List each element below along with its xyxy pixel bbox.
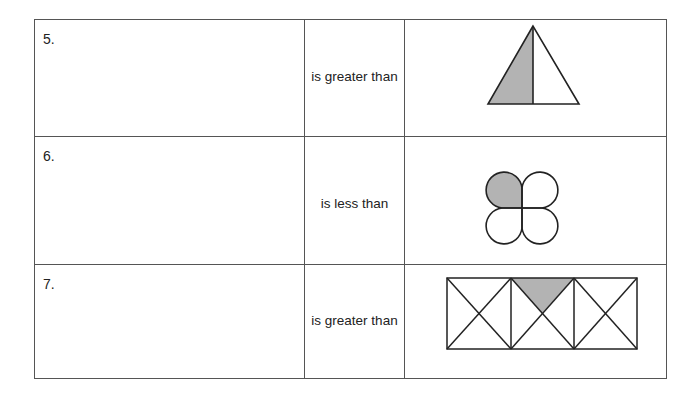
comparison-text: is greater than	[311, 313, 397, 328]
question-number: 6.	[43, 148, 55, 164]
figure-cell	[404, 137, 666, 264]
comparison-cell: is less than	[304, 137, 404, 264]
comparison-text: is less than	[321, 196, 389, 211]
four-petal-flower-icon	[405, 137, 667, 263]
question-number: 7.	[43, 276, 55, 292]
triangle-half-shaded-icon	[405, 20, 667, 134]
comparison-text: is greater than	[311, 69, 397, 84]
figure-cell	[404, 265, 666, 378]
answer-cell[interactable]: 7.	[35, 265, 304, 378]
figure-cell	[404, 20, 666, 136]
table-row: 7. is greater than	[35, 264, 666, 378]
fraction-comparison-table: 5. is greater than 6. is less than	[34, 19, 667, 379]
comparison-cell: is greater than	[304, 265, 404, 378]
three-squares-diagonals-icon	[405, 265, 667, 377]
table-row: 6. is less than	[35, 136, 666, 264]
comparison-cell: is greater than	[304, 20, 404, 136]
answer-cell[interactable]: 5.	[35, 20, 304, 136]
table-row: 5. is greater than	[35, 20, 666, 136]
question-number: 5.	[43, 31, 55, 47]
answer-cell[interactable]: 6.	[35, 137, 304, 264]
